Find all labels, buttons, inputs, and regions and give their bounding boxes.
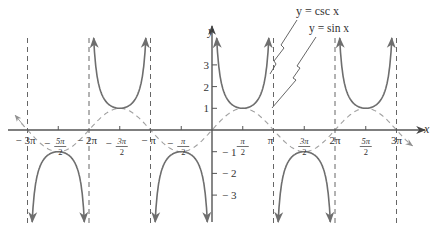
svg-text:2: 2 [241, 147, 245, 157]
svg-text:− 2π: − 2π [77, 134, 97, 146]
svg-text:2: 2 [58, 147, 62, 157]
x-tick-label: π [268, 134, 274, 146]
svg-text:1: 1 [204, 102, 210, 114]
x-axis-label: x [423, 122, 430, 136]
svg-text:3π: 3π [116, 136, 126, 146]
sin-leader-line [272, 37, 316, 108]
svg-text:2: 2 [181, 147, 185, 157]
svg-text:−: − [167, 137, 173, 149]
x-tick-label: −5π2 [44, 136, 66, 157]
svg-text:− 1: − 1 [222, 146, 236, 158]
svg-text:3π: 3π [391, 134, 403, 146]
svg-text:2: 2 [302, 147, 306, 157]
svg-text:π: π [241, 136, 246, 146]
svg-text:−: − [106, 137, 112, 149]
curve-annotations: y = csc x y = sin x [270, 4, 349, 108]
svg-text:2: 2 [364, 147, 368, 157]
csc-branch [217, 38, 269, 108]
csc-branch [94, 38, 146, 108]
svg-text:π: π [181, 136, 186, 146]
svg-text:− 3π: − 3π [15, 134, 35, 146]
csc-branch [155, 152, 207, 222]
y-tick-label: − 3 [222, 189, 237, 201]
x-tick-label: 3π [391, 134, 403, 146]
y-tick-label: 2 [204, 81, 210, 93]
svg-text:−: − [44, 137, 50, 149]
axes: x y [8, 24, 430, 222]
svg-text:− 2: − 2 [222, 167, 236, 179]
csc-annotation: y = csc x [296, 4, 339, 18]
x-tick-label: − 3π [15, 134, 35, 146]
svg-text:2: 2 [120, 147, 124, 157]
svg-text:5π: 5π [56, 136, 65, 146]
svg-text:2: 2 [204, 81, 210, 93]
svg-text:5π: 5π [361, 136, 370, 146]
y-axis-label: y [207, 24, 214, 38]
x-tick-label: − π [141, 134, 156, 146]
y-tick-label: − 1 [222, 146, 236, 158]
x-tick-label: 5π2 [360, 136, 372, 157]
sin-left-arrow [15, 115, 24, 126]
svg-text:3: 3 [204, 59, 210, 71]
x-tick-label: −π2 [167, 136, 189, 157]
csc-branch [340, 38, 392, 108]
csc-branch [278, 152, 330, 222]
sin-annotation: y = sin x [309, 22, 349, 35]
x-tick-label: 2π [329, 134, 341, 146]
csc-sin-graph: x y − 3π−5π2− 2π−3π2− π−π2π2π3π22π5π23π … [0, 0, 434, 232]
x-tick-label: π2 [237, 136, 249, 157]
csc-leader-line [270, 20, 297, 74]
svg-text:2π: 2π [329, 134, 341, 146]
y-tick-label: 3 [204, 59, 210, 71]
x-tick-label: − 2π [77, 134, 97, 146]
csc-branch [32, 152, 84, 222]
svg-text:3π: 3π [299, 136, 309, 146]
y-tick-label: 1 [204, 102, 210, 114]
svg-text:− 3: − 3 [222, 189, 237, 201]
x-tick-label: −3π2 [106, 136, 128, 157]
x-tick-label: 3π2 [298, 136, 310, 157]
svg-text:− π: − π [141, 134, 156, 146]
svg-text:π: π [268, 134, 274, 146]
y-tick-label: − 2 [222, 167, 236, 179]
